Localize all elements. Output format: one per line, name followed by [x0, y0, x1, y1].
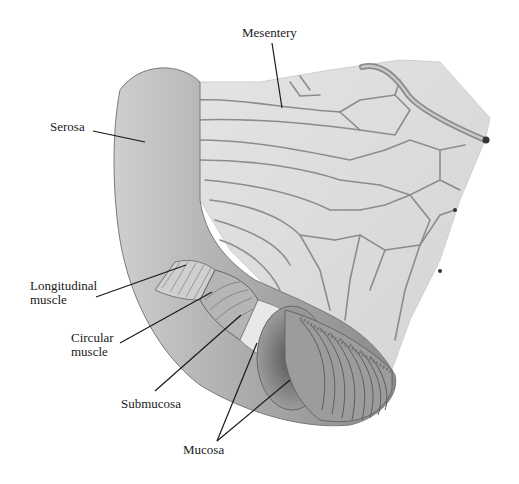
label-mucosa: Mucosa	[183, 443, 224, 457]
label-circular-muscle: Circular muscle	[71, 331, 114, 359]
intestine-wall-diagram: Mesentery Serosa Longitudinal muscle Cir…	[0, 0, 519, 484]
intestine-illustration	[0, 0, 519, 484]
label-submucosa: Submucosa	[121, 397, 181, 411]
label-serosa: Serosa	[50, 120, 85, 134]
label-mesentery: Mesentery	[242, 26, 297, 40]
label-longitudinal-muscle: Longitudinal muscle	[30, 279, 97, 307]
